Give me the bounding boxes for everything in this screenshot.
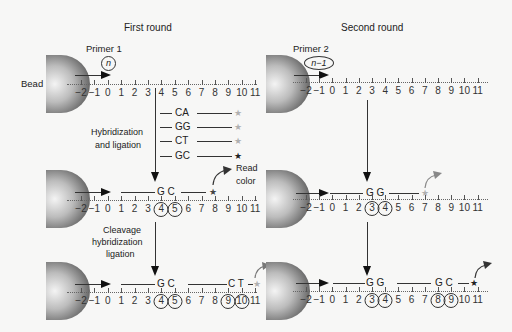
axis-tick	[438, 78, 439, 83]
probe-line-left	[121, 192, 155, 193]
primer-arrow-shaft	[75, 192, 101, 193]
axis-tick	[135, 80, 136, 85]
round2-arrow-head-icon-2	[363, 266, 371, 276]
axis-label: 5	[396, 202, 402, 213]
axis-label: −2	[75, 203, 86, 214]
axis-tick	[81, 80, 82, 85]
axis-tick	[175, 288, 176, 293]
circled-position	[378, 293, 393, 308]
axis-tick	[346, 195, 347, 200]
probe-line-right	[181, 192, 206, 193]
axis-label: 11	[250, 295, 260, 306]
cleavage-arrow-head-icon	[151, 266, 159, 276]
axis-label: −1	[89, 295, 100, 306]
probe-ct: CT	[175, 135, 188, 146]
axis-tick	[346, 78, 347, 83]
axis-label: −1	[313, 202, 324, 213]
circled-position	[378, 201, 393, 216]
primer-2-label: Primer 2	[293, 43, 329, 54]
hybridization-arrow-line	[155, 88, 156, 173]
axis-label: 5	[396, 85, 402, 96]
axis-tick	[319, 195, 320, 200]
primer-2-arrow-shaft	[294, 75, 319, 76]
axis-tick	[319, 287, 320, 292]
axis-label: 11	[472, 294, 482, 305]
first-round-title: First round	[124, 22, 172, 33]
axis-label: 7	[199, 295, 205, 306]
axis-tick	[478, 195, 479, 200]
axis-label: −2	[300, 85, 311, 96]
color-label: color	[236, 176, 256, 186]
axis-tick	[306, 287, 307, 292]
axis-tick	[81, 196, 82, 201]
probe-line-right	[197, 141, 232, 142]
axis-label: 7	[422, 85, 428, 96]
axis-tick	[319, 78, 320, 83]
probe-line-left	[160, 113, 172, 114]
axis-label: 11	[250, 87, 260, 98]
probe-line-right	[458, 283, 469, 284]
axis-tick	[108, 288, 109, 293]
axis-tick	[108, 80, 109, 85]
axis-tick	[135, 288, 136, 293]
axis-label: 1	[343, 294, 349, 305]
primer-arrow-shaft	[75, 284, 101, 285]
axis-label: 5	[396, 294, 402, 305]
axis-label: 10	[459, 294, 470, 305]
axis-tick	[425, 78, 426, 83]
axis-tick	[188, 288, 189, 293]
axis-tick	[161, 288, 162, 293]
read-label: Read	[236, 163, 258, 173]
axis-label: 8	[212, 203, 218, 214]
axis-label: 0	[330, 294, 336, 305]
axis-label: 3	[145, 295, 151, 306]
axis-tick	[464, 78, 465, 83]
axis-label: 2	[356, 202, 362, 213]
axis-label: 1	[343, 85, 349, 96]
probe-line-right	[197, 156, 232, 157]
axis-label: 9	[448, 85, 454, 96]
axis-tick	[228, 196, 229, 201]
round2-arrow-line-2	[367, 222, 368, 267]
axis-label: 10	[459, 202, 470, 213]
axis-label: 7	[199, 203, 205, 214]
axis-tick	[94, 80, 95, 85]
probe-line-mid	[397, 283, 431, 284]
axis-tick	[255, 80, 256, 85]
axis-label: 7	[199, 87, 205, 98]
axis-tick	[228, 80, 229, 85]
axis-label: 8	[212, 295, 218, 306]
primer-arrow-icon	[319, 279, 329, 287]
star-icon-gray: ★	[234, 123, 242, 132]
axis-label: 2	[132, 295, 138, 306]
axis-tick	[255, 196, 256, 201]
axis-tick	[451, 287, 452, 292]
axis-tick	[464, 287, 465, 292]
cleavage-label-3: ligation	[106, 249, 135, 259]
ligated-bases-gg: G G	[366, 277, 384, 288]
axis-tick	[346, 287, 347, 292]
axis-label: 6	[185, 87, 191, 98]
axis-tick	[438, 195, 439, 200]
primer-arrow-icon	[101, 280, 111, 288]
axis-label: −1	[313, 85, 324, 96]
axis-tick	[332, 78, 333, 83]
cleavage-arrow-line	[155, 222, 156, 267]
probe-line-right	[197, 127, 232, 128]
circled-position	[167, 202, 182, 217]
axis-tick	[306, 78, 307, 83]
axis-tick	[215, 80, 216, 85]
axis-tick	[108, 196, 109, 201]
axis-label: 0	[105, 87, 111, 98]
axis-label: 6	[409, 294, 415, 305]
axis-label: −1	[89, 203, 100, 214]
axis-label: 2	[132, 87, 138, 98]
read-color-arrow-icon	[210, 165, 234, 187]
axis-tick	[242, 196, 243, 201]
read-color-arrow-icon	[472, 260, 494, 280]
template-axis-r2-second	[293, 199, 488, 200]
axis-label: 11	[472, 85, 482, 96]
primer-2-arrow-icon	[319, 71, 329, 79]
axis-label: 4	[159, 87, 165, 98]
axis-tick	[215, 196, 216, 201]
